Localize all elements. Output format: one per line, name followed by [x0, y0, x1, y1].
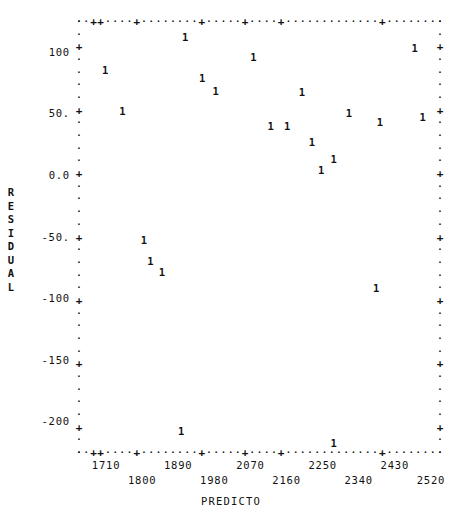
axis-dot: · [351, 448, 356, 457]
axis-dot: · [76, 207, 81, 216]
axis-dot: · [315, 448, 320, 457]
axis-dot: · [76, 435, 81, 444]
axis-tick-mark: + [437, 294, 444, 305]
x-axis-tick-label: 2340 [345, 475, 374, 486]
axis-dot: · [401, 448, 406, 457]
axis-dot: · [76, 321, 81, 330]
y-axis-tick-label: 50. [49, 108, 70, 119]
axis-dot: · [76, 181, 81, 190]
axis-dot: · [408, 448, 413, 457]
axis-dot: · [437, 118, 442, 127]
axis-dot: · [437, 308, 442, 317]
axis-dot: · [84, 17, 89, 26]
axis-dot: · [437, 346, 442, 355]
axis-dot: · [329, 17, 334, 26]
axis-tick-mark: + [437, 41, 444, 52]
axis-dot: · [300, 17, 305, 26]
axis-dot: · [76, 17, 81, 26]
axis-dot: · [365, 448, 370, 457]
axis-dot: · [437, 245, 442, 254]
axis-dot: · [235, 17, 240, 26]
axis-tick-mark: + [90, 16, 97, 27]
axis-tick-mark: + [379, 16, 386, 27]
axis-tick-mark: + [76, 231, 83, 242]
axis-dot: · [307, 17, 312, 26]
axis-dot: · [76, 283, 81, 292]
axis-dot: · [127, 448, 132, 457]
data-point: 1 [284, 121, 290, 131]
axis-dot: · [76, 346, 81, 355]
y-axis-tick-label: 100 [49, 46, 70, 57]
y-axis-tick-label: -150 [42, 354, 71, 365]
axis-tick-mark: + [437, 104, 444, 115]
axis-tick-mark: + [76, 358, 83, 369]
axis-dot: · [322, 448, 327, 457]
y-axis-tick-label: 0.0 [49, 169, 70, 180]
axis-dot: · [437, 17, 442, 26]
axis-dot: · [437, 333, 442, 342]
axis-tick-mark: + [76, 41, 83, 52]
axis-dot: · [437, 384, 442, 393]
axis-dot: · [437, 219, 442, 228]
axis-dot: · [127, 17, 132, 26]
data-point: 1 [346, 108, 352, 118]
scatter-plot: ··++····+········+·····+····+···········… [0, 0, 462, 522]
data-point: 1 [309, 137, 315, 147]
axis-dot: · [437, 143, 442, 152]
axis-dot: · [437, 131, 442, 140]
axis-dot: · [250, 17, 255, 26]
axis-dot: · [235, 448, 240, 457]
axis-dot: · [76, 308, 81, 317]
x-axis-tick-label: 1710 [92, 460, 121, 471]
axis-dot: · [437, 448, 442, 457]
axis-dot: · [437, 207, 442, 216]
axis-tick-mark: + [437, 168, 444, 179]
axis-dot: · [372, 448, 377, 457]
axis-dot: · [170, 17, 175, 26]
axis-dot: · [343, 448, 348, 457]
y-axis-tick-label: -100 [42, 293, 71, 304]
axis-dot: · [105, 448, 110, 457]
x-axis-tick-label: 2160 [272, 475, 301, 486]
data-point: 1 [377, 117, 383, 127]
axis-dot: · [213, 17, 218, 26]
axis-dot: · [387, 17, 392, 26]
data-point: 1 [318, 165, 324, 175]
axis-dot: · [163, 448, 168, 457]
x-axis-tick-label: 2070 [236, 460, 265, 471]
axis-tick-mark: + [198, 16, 205, 27]
axis-dot: · [76, 270, 81, 279]
axis-dot: · [437, 270, 442, 279]
axis-dot: · [437, 156, 442, 165]
axis-tick-mark: + [90, 447, 97, 458]
axis-dot: · [394, 448, 399, 457]
axis-dot: · [408, 17, 413, 26]
axis-tick-mark: + [242, 447, 249, 458]
y-axis-title-char: L [4, 281, 18, 295]
axis-dot: · [336, 17, 341, 26]
axis-dot: · [437, 93, 442, 102]
axis-dot: · [177, 17, 182, 26]
y-axis-title-char: R [4, 186, 18, 200]
y-axis-tick-label: -50. [42, 231, 71, 242]
axis-tick-mark: + [198, 447, 205, 458]
axis-tick-mark: + [76, 168, 83, 179]
axis-dot: · [437, 80, 442, 89]
axis-dot: · [416, 17, 421, 26]
axis-dot: · [257, 448, 262, 457]
axis-dot: · [221, 448, 226, 457]
axis-dot: · [76, 29, 81, 38]
axis-dot: · [437, 397, 442, 406]
axis-tick-mark: + [242, 16, 249, 27]
axis-dot: · [307, 448, 312, 457]
axis-dot: · [423, 448, 428, 457]
axis-dot: · [76, 67, 81, 76]
axis-dot: · [76, 118, 81, 127]
axis-dot: · [156, 17, 161, 26]
axis-dot: · [84, 448, 89, 457]
axis-dot: · [76, 371, 81, 380]
axis-tick-mark: + [76, 421, 83, 432]
axis-tick-mark: + [133, 447, 140, 458]
axis-dot: · [141, 448, 146, 457]
data-point: 1 [147, 256, 153, 266]
